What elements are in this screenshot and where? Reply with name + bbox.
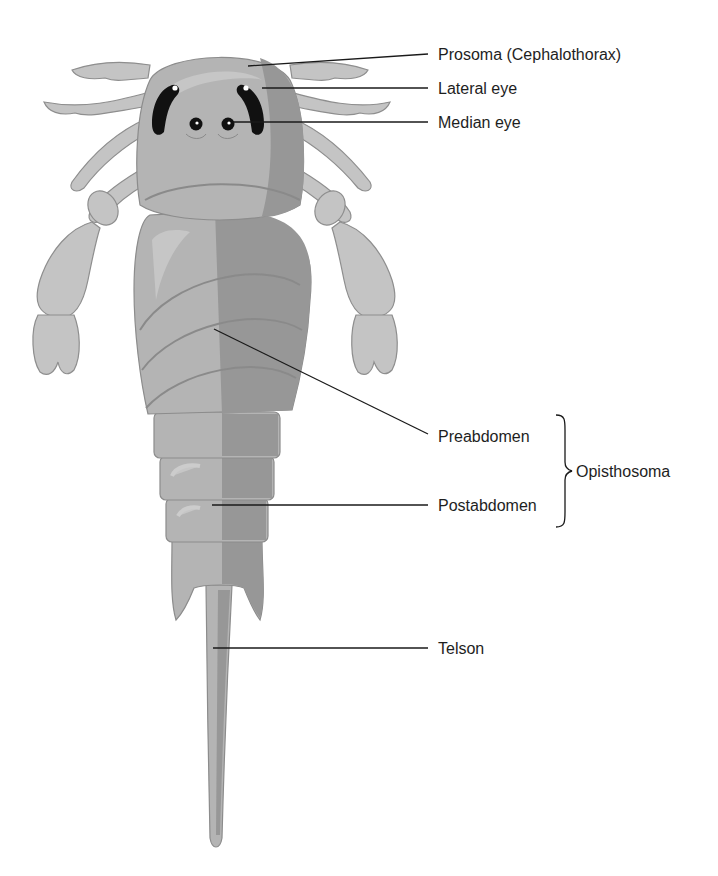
eurypterid-diagram — [0, 0, 718, 876]
label-prosoma: Prosoma (Cephalothorax) — [438, 46, 621, 64]
label-telson: Telson — [438, 640, 484, 658]
label-postabdomen: Postabdomen — [438, 497, 537, 515]
label-preabdomen: Preabdomen — [438, 428, 530, 446]
prosoma — [137, 57, 304, 220]
label-lateral-eye: Lateral eye — [438, 80, 517, 98]
preabdomen — [134, 210, 311, 414]
label-opisthosoma: Opisthosoma — [576, 463, 670, 481]
postabdomen — [154, 412, 280, 542]
label-median-eye: Median eye — [438, 114, 521, 132]
left-appendages — [33, 62, 150, 374]
